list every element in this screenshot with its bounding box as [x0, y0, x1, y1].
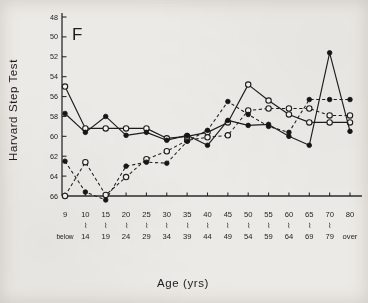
data-point-open	[123, 174, 128, 179]
data-point-open	[205, 135, 210, 140]
x-tick-label-bottom: 29	[142, 232, 150, 241]
y-tick-label: 54	[50, 72, 58, 81]
data-point-open	[225, 133, 230, 138]
x-tick-label-top: 70	[325, 210, 333, 219]
y-tick-label: 64	[50, 172, 58, 181]
data-point-filled	[164, 161, 169, 166]
data-point-filled	[63, 111, 68, 116]
data-point-filled	[266, 124, 271, 129]
data-point-filled	[307, 143, 312, 148]
y-tick-label: 48	[50, 13, 58, 22]
data-point-filled	[205, 128, 210, 133]
x-tick-label-top: 20	[122, 210, 130, 219]
x-tick-label-bottom: 59	[264, 232, 272, 241]
y-tick-label: 56	[50, 92, 58, 101]
x-tick-label-top: 9	[63, 210, 67, 219]
y-tick-label: 58	[50, 112, 58, 121]
x-tick-label-bottom: 49	[224, 232, 232, 241]
x-tick-range-mark: ⌇	[84, 221, 87, 230]
x-tick-label-top: 15	[101, 210, 109, 219]
data-point-filled	[83, 190, 88, 195]
x-tick-label-bottom: 54	[244, 232, 252, 241]
x-tick-range-mark: ⌇	[247, 221, 250, 230]
x-tick-label-bottom: 39	[183, 232, 191, 241]
x-tick-label-top: 30	[163, 210, 171, 219]
x-tick-label-bottom: over	[343, 232, 358, 241]
data-point-filled	[124, 164, 129, 169]
x-tick-label-bottom: 69	[305, 232, 313, 241]
data-point-filled	[287, 130, 292, 135]
y-tick-label: 52	[50, 52, 58, 61]
data-point-filled	[226, 99, 231, 104]
series-line	[65, 100, 350, 200]
data-point-open	[327, 120, 332, 125]
x-tick-label-top: 40	[203, 210, 211, 219]
axes-layer: 485052545658606264669below10⌇1415⌇1920⌇2…	[50, 13, 362, 241]
data-point-filled	[103, 114, 108, 119]
data-point-filled	[226, 118, 231, 123]
data-point-filled	[103, 198, 108, 203]
y-axis-title: Harvard Step Test	[7, 59, 19, 161]
data-point-open	[266, 106, 271, 111]
data-point-filled	[63, 159, 68, 164]
x-tick-label-top: 35	[183, 210, 191, 219]
data-point-open	[246, 82, 251, 87]
data-point-open	[347, 113, 352, 118]
data-point-open	[286, 112, 291, 117]
data-point-filled	[327, 97, 332, 102]
data-point-filled	[185, 133, 190, 138]
x-tick-label-top: 60	[285, 210, 293, 219]
x-tick-range-mark: ⌇	[226, 221, 229, 230]
data-point-filled	[83, 130, 88, 135]
x-tick-range-mark: ⌇	[328, 221, 331, 230]
x-tick-label-bottom: 64	[285, 232, 293, 241]
x-tick-range-mark: ⌇	[145, 221, 148, 230]
data-point-open	[286, 106, 291, 111]
x-tick-range-mark: ⌇	[165, 221, 168, 230]
x-tick-range-mark: ⌇	[267, 221, 270, 230]
data-point-filled	[307, 97, 312, 102]
y-tick-label: 60	[50, 132, 58, 141]
x-tick-label-top: 45	[224, 210, 232, 219]
x-tick-range-mark: ⌇	[308, 221, 311, 230]
data-point-filled	[327, 51, 332, 56]
series-filled-circle-dashed	[63, 97, 353, 202]
data-point-filled	[144, 160, 149, 165]
y-tick-label: 66	[50, 192, 58, 201]
data-point-filled	[185, 139, 190, 144]
data-point-open	[103, 126, 108, 131]
x-tick-label-top: 55	[264, 210, 272, 219]
x-tick-label-bottom: 24	[122, 232, 130, 241]
data-point-filled	[348, 129, 353, 134]
data-point-filled	[348, 97, 353, 102]
data-point-open	[307, 106, 312, 111]
x-tick-range-mark: ⌇	[104, 221, 107, 230]
x-tick-label-bottom: 79	[325, 232, 333, 241]
data-point-open	[307, 120, 312, 125]
y-tick-label: 62	[50, 152, 58, 161]
series-layer	[62, 51, 352, 203]
data-point-open	[62, 193, 67, 198]
x-tick-range-mark: ⌇	[186, 221, 189, 230]
data-point-open	[83, 159, 88, 164]
x-tick-label-top: 50	[244, 210, 252, 219]
data-point-filled	[246, 123, 251, 128]
y-tick-label: 50	[50, 32, 58, 41]
data-point-open	[103, 192, 108, 197]
x-tick-range-mark: ⌇	[206, 221, 209, 230]
x-tick-label-bottom: 14	[81, 232, 89, 241]
x-tick-label-top: 65	[305, 210, 313, 219]
data-point-filled	[164, 138, 169, 143]
x-tick-range-mark: ⌇	[287, 221, 290, 230]
panel-label: F	[72, 25, 82, 44]
x-tick-label-bottom: 19	[101, 232, 109, 241]
x-tick-label-top: 80	[346, 210, 354, 219]
data-point-filled	[205, 143, 210, 148]
x-tick-range-mark: ⌇	[125, 221, 128, 230]
data-point-open	[62, 84, 67, 89]
labels-layer: F Age (yrs) Harvard Step Test	[7, 25, 209, 289]
x-tick-label-bottom: below	[56, 233, 73, 240]
data-point-filled	[144, 130, 149, 135]
data-point-filled	[246, 112, 251, 117]
data-point-open	[123, 126, 128, 131]
